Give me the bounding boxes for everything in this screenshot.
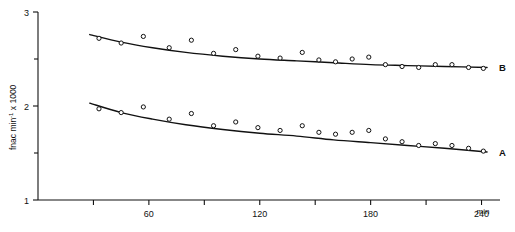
data-point bbox=[317, 58, 321, 62]
data-point bbox=[141, 105, 145, 109]
series-labels: BA bbox=[499, 62, 506, 158]
data-point bbox=[350, 57, 354, 61]
y-axis-ticks: 123 bbox=[24, 8, 38, 206]
data-point bbox=[433, 63, 437, 67]
data-point bbox=[97, 36, 101, 40]
data-point bbox=[300, 124, 304, 128]
data-point bbox=[234, 120, 238, 124]
fit-curve-b bbox=[90, 35, 487, 68]
y-axis-title: fnac min-1 x 1000 bbox=[8, 84, 18, 150]
data-point bbox=[189, 111, 193, 115]
data-point bbox=[333, 60, 337, 64]
data-point bbox=[167, 117, 171, 121]
data-point bbox=[278, 56, 282, 60]
data-point bbox=[450, 63, 454, 67]
series-label-b: B bbox=[499, 62, 506, 73]
scatter-plot: 123 60120180240 BA fnac min-1 x 1000 min bbox=[0, 0, 515, 232]
data-point bbox=[256, 54, 260, 58]
axes-group bbox=[38, 12, 500, 200]
data-point bbox=[350, 130, 354, 134]
data-point bbox=[417, 143, 421, 147]
data-point bbox=[167, 46, 171, 50]
data-point bbox=[317, 130, 321, 134]
data-point bbox=[400, 140, 404, 144]
data-point bbox=[450, 143, 454, 147]
data-point bbox=[466, 146, 470, 150]
data-point bbox=[189, 38, 193, 42]
data-point bbox=[256, 126, 260, 130]
y-tick-label: 1 bbox=[24, 196, 29, 206]
data-point bbox=[367, 128, 371, 132]
chart-figure: 123 60120180240 BA fnac min-1 x 1000 min bbox=[0, 0, 515, 232]
y-tick-label: 3 bbox=[24, 8, 29, 18]
series-label-a: A bbox=[499, 147, 506, 158]
data-point bbox=[278, 128, 282, 132]
data-point bbox=[333, 132, 337, 136]
data-point bbox=[97, 107, 101, 111]
y-tick-label: 2 bbox=[24, 102, 29, 112]
data-point bbox=[481, 149, 485, 153]
y-axis-title-main: fnac min bbox=[8, 118, 18, 150]
data-point bbox=[119, 41, 123, 45]
data-point bbox=[211, 51, 215, 55]
data-point bbox=[141, 34, 145, 38]
data-point bbox=[119, 110, 123, 114]
x-tick-label: 120 bbox=[252, 209, 267, 219]
x-tick-label: 180 bbox=[363, 209, 378, 219]
data-point bbox=[367, 55, 371, 59]
data-point bbox=[400, 64, 404, 68]
x-axis-ticks: 60120180240 bbox=[93, 200, 489, 219]
data-point bbox=[481, 66, 485, 70]
data-point bbox=[433, 142, 437, 146]
data-point bbox=[234, 48, 238, 52]
fit-curve-a bbox=[90, 103, 487, 152]
x-axis-unit-label: min bbox=[477, 207, 490, 216]
data-point bbox=[383, 137, 387, 141]
data-point bbox=[466, 65, 470, 69]
x-tick-label: 60 bbox=[144, 209, 154, 219]
y-axis-title-tail: x 1000 bbox=[8, 84, 18, 112]
fit-curves bbox=[90, 35, 487, 153]
svg-text:fnac min-1 x 1000: fnac min-1 x 1000 bbox=[8, 84, 18, 150]
data-point bbox=[383, 63, 387, 67]
data-point bbox=[417, 65, 421, 69]
data-point bbox=[211, 124, 215, 128]
data-point bbox=[300, 50, 304, 54]
